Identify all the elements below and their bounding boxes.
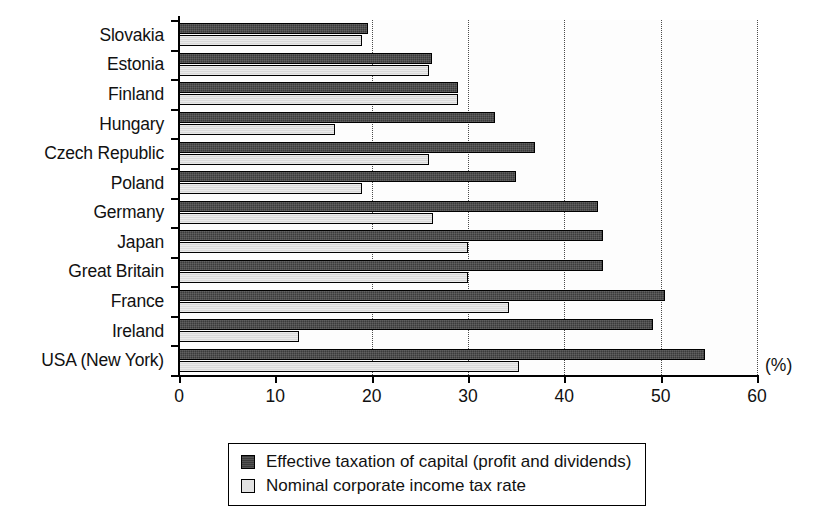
bar-effective-ireland (179, 319, 653, 330)
y-axis-category-labels: SlovakiaEstoniaFinlandHungaryCzech Repub… (0, 20, 172, 375)
bar-nominal-ireland (179, 331, 299, 342)
bar-effective-france (179, 290, 665, 301)
x-tick-0 (179, 375, 181, 383)
y-tick-5 (171, 168, 179, 170)
plot-area (179, 20, 757, 375)
y-tick-3 (171, 109, 179, 111)
bar-nominal-japan (179, 242, 468, 253)
axis-unit-label: (%) (765, 355, 792, 375)
y-tick-8 (171, 257, 179, 259)
x-axis-tick-label-40: 40 (555, 386, 574, 406)
y-axis-label-usa-new-york: USA (New York) (41, 350, 164, 370)
bar-effective-poland (179, 171, 516, 182)
bar-nominal-france (179, 302, 509, 313)
y-tick-1 (171, 50, 179, 52)
y-tick-9 (171, 286, 179, 288)
bar-nominal-poland (179, 183, 362, 194)
x-axis-tick-label-10: 10 (266, 386, 285, 406)
x-axis-tick-label-60: 60 (747, 386, 766, 406)
y-axis-line (178, 16, 180, 377)
y-tick-11 (171, 345, 179, 347)
bar-effective-estonia (179, 53, 432, 64)
x-tick-30 (468, 375, 470, 383)
y-axis-label-japan: Japan (117, 232, 164, 252)
y-tick-0 (171, 20, 179, 22)
x-axis-tick-label-20: 20 (362, 386, 381, 406)
bar-effective-japan (179, 230, 603, 241)
bar-nominal-usa-new-york (179, 361, 519, 372)
bar-effective-germany (179, 201, 598, 212)
legend-label-effective-taxation: Effective taxation of capital (profit an… (266, 452, 631, 472)
x-axis-tick-label-0: 0 (174, 386, 184, 406)
y-tick-2 (171, 79, 179, 81)
bar-effective-great-britain (179, 260, 603, 271)
gridline-60 (757, 20, 758, 375)
bar-nominal-finland (179, 94, 458, 105)
x-tick-10 (275, 375, 277, 383)
x-tick-60 (757, 375, 759, 383)
bar-nominal-germany (179, 213, 433, 224)
bar-effective-slovakia (179, 23, 368, 34)
y-axis-label-great-britain: Great Britain (68, 261, 164, 281)
legend-item-nominal-rate: Nominal corporate income tax rate (241, 474, 631, 498)
bar-nominal-czech-republic (179, 154, 429, 165)
y-tick-4 (171, 138, 179, 140)
gridline-50 (661, 20, 662, 375)
y-axis-label-france: France (111, 291, 164, 311)
x-tick-50 (661, 375, 663, 383)
legend-swatch-light-icon (241, 479, 255, 493)
y-axis-label-germany: Germany (93, 202, 164, 222)
x-tick-20 (372, 375, 374, 383)
y-tick-7 (171, 227, 179, 229)
legend-swatch-dark-icon (241, 455, 255, 469)
y-tick-10 (171, 316, 179, 318)
x-axis-tick-label-30: 30 (458, 386, 477, 406)
legend-item-effective-taxation: Effective taxation of capital (profit an… (241, 450, 631, 474)
y-tick-end (171, 375, 179, 377)
bar-nominal-hungary (179, 124, 335, 135)
bar-chart: SlovakiaEstoniaFinlandHungaryCzech Repub… (0, 0, 827, 527)
x-tick-40 (564, 375, 566, 383)
x-axis-tick-label-50: 50 (651, 386, 670, 406)
y-axis-label-finland: Finland (108, 84, 164, 104)
bar-effective-czech-republic (179, 142, 535, 153)
bar-nominal-estonia (179, 65, 429, 76)
chart-legend: Effective taxation of capital (profit an… (228, 443, 646, 506)
y-tick-6 (171, 198, 179, 200)
bar-nominal-slovakia (179, 35, 362, 46)
bar-effective-usa-new-york (179, 349, 705, 360)
y-axis-label-slovakia: Slovakia (99, 25, 164, 45)
y-axis-label-poland: Poland (111, 173, 164, 193)
y-axis-label-hungary: Hungary (99, 114, 164, 134)
y-axis-label-ireland: Ireland (112, 321, 164, 341)
y-axis-label-czech-republic: Czech Republic (44, 143, 164, 163)
bar-effective-hungary (179, 112, 495, 123)
legend-label-nominal-rate: Nominal corporate income tax rate (266, 476, 526, 496)
bar-effective-finland (179, 82, 458, 93)
y-axis-label-estonia: Estonia (107, 54, 164, 74)
bar-nominal-great-britain (179, 272, 468, 283)
